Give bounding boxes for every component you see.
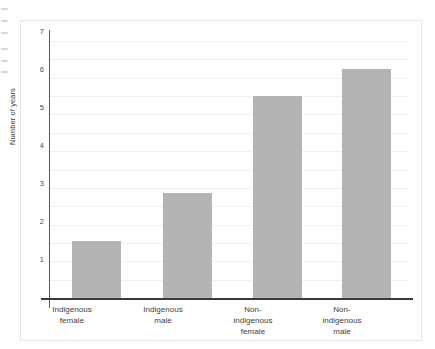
x-tick-label-line: male xyxy=(127,315,199,326)
x-tick-label-line: male xyxy=(306,326,378,337)
y-tick-label-2: 2 xyxy=(28,218,44,226)
x-tick-label-line: Indigenous xyxy=(127,304,199,315)
x-tick-label-line: Indigenous xyxy=(36,304,108,315)
y-tick-label-7: 7 xyxy=(28,28,44,36)
x-tick-label-indigenous-male: Indigenous male xyxy=(127,304,199,326)
x-tick-label-line: Non- xyxy=(217,304,289,315)
x-tick-label-line: female xyxy=(36,315,108,326)
gridline-7 xyxy=(49,41,409,42)
y-tick-label-5: 5 xyxy=(28,104,44,112)
x-tick-label-non-indigenous-female: Non- indigenous female xyxy=(217,304,289,337)
bar-non-indigenous-male[interactable] xyxy=(342,69,391,298)
x-axis-line xyxy=(41,298,413,300)
plot-area xyxy=(49,30,409,298)
x-tick-label-line: indigenous xyxy=(306,315,378,326)
x-tick-label-line: Non- xyxy=(306,304,378,315)
bar-indigenous-female[interactable] xyxy=(72,241,121,298)
y-tick-label-4: 4 xyxy=(28,142,44,150)
chart-page: 1 2 3 4 5 6 7 Number of years Indigenous… xyxy=(0,0,435,349)
x-tick-label-indigenous-female: Indigenous female xyxy=(36,304,108,326)
y-tick-label-3: 3 xyxy=(28,180,44,188)
gridline-6.5 xyxy=(49,59,409,60)
x-tick-label-non-indigenous-male: Non- indigenous male xyxy=(306,304,378,337)
x-tick-label-line: female xyxy=(217,326,289,337)
y-tick-label-6: 6 xyxy=(28,66,44,74)
bar-indigenous-male[interactable] xyxy=(163,193,212,298)
y-axis-title: Number of years xyxy=(8,88,17,145)
cropped-margin-text-fragments xyxy=(0,8,10,78)
x-tick-label-line: indigenous xyxy=(217,315,289,326)
y-tick-label-1: 1 xyxy=(28,256,44,264)
bar-non-indigenous-female[interactable] xyxy=(253,96,302,298)
y-axis-line xyxy=(49,30,50,308)
